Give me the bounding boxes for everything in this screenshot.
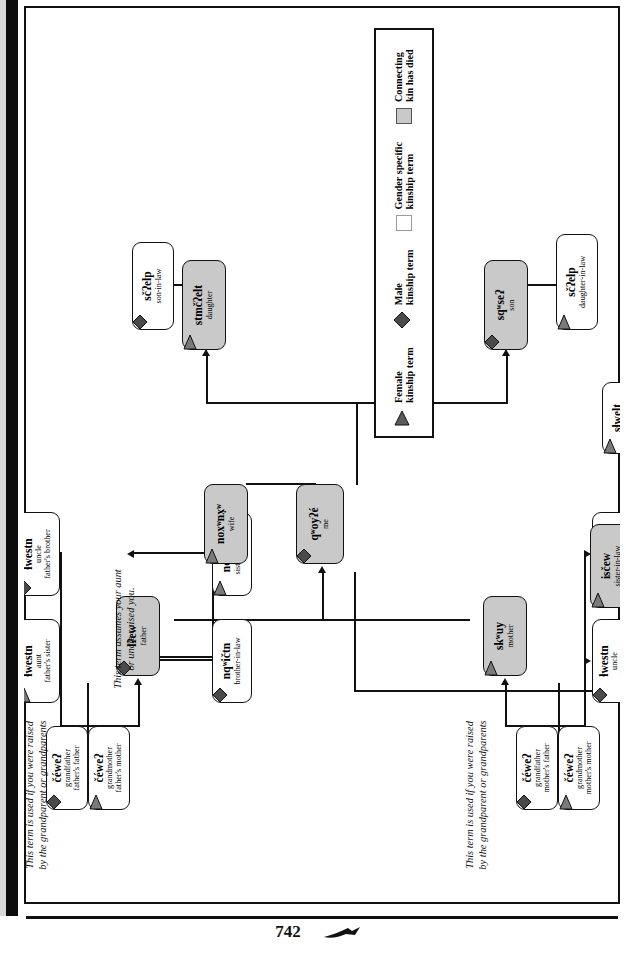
kinship-gloss: uncle father's brother [35,529,52,578]
white-square-icon [396,215,412,231]
kinship-gloss: son-in-law [155,268,164,303]
kinship-term: ɬwestn [24,645,34,676]
female-triangle-icon [88,794,104,810]
kinship-term: isčew [601,553,613,579]
kinship-gloss: daughter-in-law [579,256,588,308]
female-triangle-icon [212,580,228,596]
male-diamond-icon [24,580,32,596]
connector-mother-up [324,619,470,621]
page: čéweʔ grandfather father's father čéweʔ … [0,0,626,962]
male-diamond-icon [484,334,500,350]
male-diamond-icon [516,794,532,810]
male-diamond-icon [296,548,312,564]
connector-to-son [506,354,508,404]
kinship-gloss: grandfather father's father [64,746,81,791]
note-aunt-uncle-father: This term assumes your aunt or uncle rai… [112,564,137,694]
legend-item-connecting-kin-died: Connecting kin has died [393,40,416,133]
kinship-term: qʷoyʔé [309,507,321,540]
kinship-term: čéweʔ [564,754,576,783]
female-triangle-icon [558,794,574,810]
arrow-to-daughter [202,349,210,356]
legend-label: Gender specific kinship term [393,142,416,209]
figure-area: čéweʔ grandfather father's father čéweʔ … [24,6,620,904]
connector-maternal-aunt-uncle-bar [584,552,586,727]
male-diamond-icon [393,311,415,329]
node-niece[interactable]: sɬwelt niece [602,382,620,454]
legend-label: Male kinship term [393,249,416,305]
swallow-glyph-icon [322,924,362,944]
kinship-term: nqʷičtn [221,643,233,679]
kinship-term: ɬwestn [24,538,34,569]
kinship-term: ɬwestn [599,645,611,676]
connector-me-to-siblings [354,572,356,692]
female-triangle-icon [590,592,606,608]
gray-square-icon [396,108,412,124]
connector-to-daughter [206,354,208,404]
node-grandmother-mothers-mother[interactable]: čéweʔ grandmother mother's mother [558,726,600,810]
node-brother-in-law-fathers-sisters-husband[interactable]: nqʷičtn brother-in-law [212,619,252,703]
page-number: 742 [258,922,318,942]
legend: Female kinship term Male kinship term [374,28,434,438]
kinship-term: sɬwelt [612,404,620,432]
arrow-to-mother [501,678,509,685]
kinship-term: čéweʔ [52,754,64,783]
female-triangle-icon [393,409,415,427]
node-uncle-fathers-brother[interactable]: ɬwestn uncle father's brother [24,512,60,596]
connector-couple-to-children [356,402,358,485]
female-triangle-icon [602,438,618,454]
note-grandparent-mother: This term is used if you were raised by … [464,720,489,870]
kinship-term: noxʷnx̣ʷ [215,504,227,544]
kinship-gloss: grandmother mother's mother [576,741,593,794]
kinship-term: sqʷseʔ [495,290,507,321]
node-daughter[interactable]: stmčʔelt daughter [182,260,226,350]
node-grandmother-fathers-mother[interactable]: čéweʔ grandmother father's mother [88,726,130,810]
legend-label: Connecting kin has died [393,49,416,102]
node-sister-in-law[interactable]: isčew sister-in-law [590,524,620,608]
connector-parents-to-me [322,571,324,621]
kinship-gloss: uncle mother's brother [611,634,620,688]
kinship-term: sčʔelp [142,271,154,300]
node-son[interactable]: sqʷseʔ son [484,260,528,350]
male-diamond-icon [132,314,148,330]
node-aunt-fathers-sister[interactable]: ɬwestn aunt father's sister [24,619,60,703]
kinship-gloss: grandfather mother's father [534,744,551,793]
node-mother[interactable]: skʷuy mother [483,596,527,676]
kinship-term: čéweʔ [94,754,106,783]
female-triangle-icon [483,660,499,676]
female-triangle-icon [204,548,220,564]
node-me[interactable]: qʷoyʔé me [296,484,344,564]
page-spine [6,0,18,916]
kinship-gloss: sister-in-law [614,546,620,587]
node-son-in-law[interactable]: sčʔelp son-in-law [132,242,174,330]
connector-paternal-aunt-uncle-bar [60,552,62,727]
female-triangle-icon [556,314,572,330]
kinship-gloss: me [322,519,331,529]
kinship-term: stmčʔelt [193,285,205,325]
connector-to-father [138,683,140,727]
arrow-to-son [502,349,510,356]
note-grandparent-father: This term is used if you were raised by … [24,720,49,870]
kinship-gloss: wife [228,517,237,532]
male-diamond-icon [592,687,608,703]
kinship-term: skʷuy [494,622,506,650]
arrow-to-me [318,566,326,573]
kinship-term: sčʔelp [566,267,578,296]
connector-inlaw-right [134,552,214,554]
legend-item-male: Male kinship term [393,240,416,338]
kinship-gloss: brother-in-law [234,637,243,684]
node-grandfather-mothers-father[interactable]: čéweʔ grandfather mother's father [516,726,558,810]
arrow-to-uncle-mb [584,657,591,665]
female-triangle-icon [182,334,198,350]
kinship-gloss: son [508,299,517,310]
legend-label: Female kinship term [393,347,416,403]
kinship-gloss: grandmother father's mother [106,744,123,793]
kinship-gloss: aunt father's sister [35,639,52,682]
connector-son-dil [528,284,556,286]
kinship-diagram: čéweʔ grandfather father's father čéweʔ … [24,6,620,904]
node-uncle-mothers-brother[interactable]: ɬwestn uncle mother's brother [592,619,620,703]
node-daughter-in-law[interactable]: sčʔelp daughter-in-law [556,234,598,330]
kinship-gloss: father [140,626,149,645]
node-wife[interactable]: noxʷnx̣ʷ wife [204,484,248,564]
male-diamond-icon [212,687,228,703]
node-grandfather-fathers-father[interactable]: čéweʔ grandfather father's father [46,726,88,810]
